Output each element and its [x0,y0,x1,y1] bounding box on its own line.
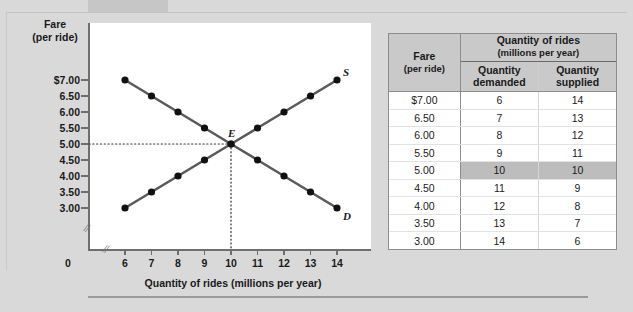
curve-label-s: S [343,66,349,78]
supply-demand-chart: Fare (per ride) 0 $7.006.506.005.505.004… [0,0,380,296]
cell-quantity-supplied: 7 [538,214,616,232]
cell-quantity-supplied: 12 [538,127,616,145]
supply-demand-table: Fare (per ride) Quantity of rides (milli… [388,33,617,250]
data-point [174,108,181,115]
cell-quantity-supplied: 11 [538,144,616,162]
cell-quantity-demanded: 6 [460,92,538,110]
header-fare-line1: Fare [413,50,435,62]
cell-fare: 4.50 [389,179,460,197]
x-axis-title: Quantity of rides (millions per year) [88,277,378,289]
table-row: $7.00614 [389,92,616,110]
header-supplied-line2: supplied [556,76,599,88]
cell-quantity-demanded: 10 [460,162,538,180]
header-demanded-line2: demanded [473,76,526,88]
table-head: Fare (per ride) Quantity of rides (milli… [389,34,616,92]
data-point [148,92,155,99]
table-row: 5.001010 [389,162,616,180]
cell-quantity-demanded: 13 [460,214,538,232]
cell-quantity-supplied: 9 [538,179,616,197]
cell-fare: 5.00 [389,162,460,180]
cell-quantity-demanded: 9 [460,144,538,162]
cell-quantity-supplied: 8 [538,197,616,215]
table-row: 6.50713 [389,109,616,127]
data-point [174,172,181,179]
data-point [333,76,340,83]
data-point [254,156,261,163]
data-point [280,172,287,179]
cell-quantity-demanded: 8 [460,127,538,145]
figure-root: Fare (per ride) 0 $7.006.506.005.505.004… [0,0,633,312]
data-point [227,140,234,147]
data-point [201,124,208,131]
cell-quantity-supplied: 13 [538,109,616,127]
cell-fare: 4.00 [389,197,460,215]
table-row: 3.50137 [389,214,616,232]
data-point [307,188,314,195]
cell-fare: 6.00 [389,127,460,145]
curves-layer [0,0,380,296]
header-fare: Fare (per ride) [389,34,460,92]
bottom-divider [88,296,588,298]
cell-quantity-demanded: 14 [460,232,538,249]
cell-fare: $7.00 [389,92,460,110]
header-supplied-line1: Quantity [556,64,599,76]
header-quantity-supplied: Quantity supplied [538,62,616,92]
table-row: 3.00146 [389,232,616,249]
data-point [201,156,208,163]
header-group-line1: Quantity of rides [497,34,580,46]
header-quantity-demanded: Quantity demanded [460,62,538,92]
table-row: 5.50911 [389,144,616,162]
header-quantity-group: Quantity of rides (millions per year) [460,34,616,62]
table-row: 6.00812 [389,127,616,145]
cell-quantity-supplied: 14 [538,92,616,110]
cell-fare: 6.50 [389,109,460,127]
cell-quantity-demanded: 12 [460,197,538,215]
cell-quantity-demanded: 7 [460,109,538,127]
table-row: 4.00128 [389,197,616,215]
data-point [254,124,261,131]
curve-label-d: D [343,210,351,222]
header-demanded-line1: Quantity [478,64,521,76]
cell-quantity-demanded: 11 [460,179,538,197]
table-body: $7.006146.507136.008125.509115.0010104.5… [389,92,616,250]
cell-fare: 5.50 [389,144,460,162]
cell-quantity-supplied: 6 [538,232,616,249]
data-point [333,204,340,211]
data-point [148,188,155,195]
header-group-line2: (millions per year) [497,47,579,58]
equilibrium-label: E [228,127,235,139]
data-point [307,92,314,99]
data-point [121,76,128,83]
cell-fare: 3.00 [389,232,460,249]
data-point [121,204,128,211]
table-row: 4.50119 [389,179,616,197]
data-point [280,108,287,115]
cell-quantity-supplied: 10 [538,162,616,180]
header-fare-line2: (per ride) [404,63,445,74]
cell-fare: 3.50 [389,214,460,232]
